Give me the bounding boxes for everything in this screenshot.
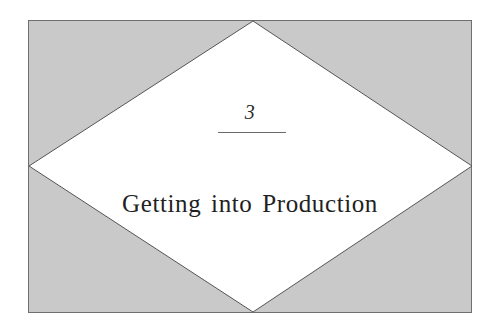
chapter-number: 3: [28, 102, 472, 122]
chapter-number-rule: [218, 132, 286, 133]
chapter-text-block: 3 Getting into Production: [28, 20, 472, 313]
chapter-opening-page: 3 Getting into Production: [0, 0, 500, 331]
chapter-title: Getting into Production: [28, 190, 472, 218]
